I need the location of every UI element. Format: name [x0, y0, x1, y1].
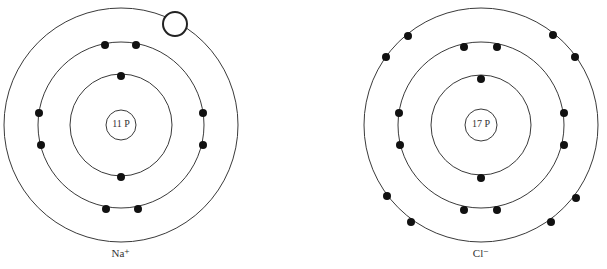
na-nucleus-label: 11 P — [106, 118, 136, 129]
electron — [560, 109, 568, 117]
na-ion-label: Na⁺ — [91, 247, 151, 260]
electron — [199, 141, 207, 149]
cl-nucleus-label: 17 P — [466, 118, 496, 129]
electron — [101, 41, 109, 49]
electron — [460, 206, 468, 214]
cl-ion-label: Cl⁻ — [451, 247, 511, 260]
electron-vacancy-marker — [163, 12, 187, 36]
electron — [549, 31, 557, 39]
electron — [395, 109, 403, 117]
electron — [460, 43, 468, 51]
electron — [493, 43, 501, 51]
electron — [396, 141, 404, 149]
electron — [493, 206, 501, 214]
electron — [572, 194, 580, 202]
electron — [117, 72, 125, 80]
electron — [571, 53, 579, 61]
electron — [404, 32, 412, 40]
electron — [102, 205, 110, 213]
electron — [407, 218, 415, 226]
electron — [199, 109, 207, 117]
electron — [117, 173, 125, 181]
electron — [134, 205, 142, 213]
electron — [477, 75, 485, 83]
diagram-canvas — [0, 0, 607, 269]
electron — [35, 109, 43, 117]
electron — [547, 218, 555, 226]
electron — [383, 192, 391, 200]
electron — [132, 41, 140, 49]
electron — [37, 141, 45, 149]
electron — [382, 53, 390, 61]
electron — [560, 141, 568, 149]
electron — [477, 174, 485, 182]
